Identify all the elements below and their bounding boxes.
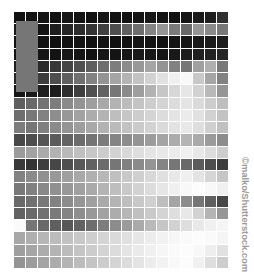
mosaic-cell bbox=[38, 61, 49, 72]
mosaic-cell bbox=[98, 36, 109, 47]
mosaic-cell bbox=[38, 196, 49, 207]
mosaic-cell bbox=[74, 49, 85, 60]
mosaic-cell bbox=[181, 183, 192, 194]
mosaic-cell bbox=[38, 122, 49, 133]
mosaic-cell bbox=[181, 85, 192, 96]
mosaic-cell bbox=[62, 61, 73, 72]
mosaic-cell bbox=[86, 110, 97, 121]
mosaic-cell bbox=[193, 98, 204, 109]
mosaic-cell bbox=[38, 159, 49, 170]
mosaic-cell bbox=[86, 98, 97, 109]
mosaic-cell bbox=[98, 98, 109, 109]
mosaic-cell bbox=[193, 220, 204, 231]
mosaic-cell bbox=[133, 110, 144, 121]
mosaic-cell bbox=[157, 245, 168, 256]
mosaic-cell bbox=[169, 61, 180, 72]
mosaic-cell bbox=[74, 134, 85, 145]
mosaic-cell bbox=[62, 232, 73, 243]
mosaic-cell bbox=[205, 183, 216, 194]
mosaic-cell bbox=[205, 159, 216, 170]
mosaic-cell bbox=[157, 183, 168, 194]
mosaic-cell bbox=[181, 36, 192, 47]
mosaic-cell bbox=[50, 49, 61, 60]
mosaic-cell bbox=[110, 12, 121, 23]
mosaic-cell bbox=[50, 24, 61, 35]
mosaic-cell bbox=[86, 183, 97, 194]
mosaic-cell bbox=[205, 220, 216, 231]
mosaic-cell bbox=[133, 171, 144, 182]
mosaic-cell bbox=[62, 36, 73, 47]
mosaic-cell bbox=[205, 122, 216, 133]
mosaic-cell bbox=[181, 122, 192, 133]
mosaic-cell bbox=[193, 232, 204, 243]
mosaic-cell bbox=[205, 257, 216, 268]
mosaic-cell bbox=[14, 134, 25, 145]
mosaic-cell bbox=[26, 183, 37, 194]
mosaic-cell bbox=[14, 159, 25, 170]
mosaic-cell bbox=[74, 147, 85, 158]
mosaic-cell bbox=[62, 257, 73, 268]
mosaic-cell bbox=[62, 134, 73, 145]
mosaic-cell bbox=[14, 110, 25, 121]
mosaic-cell bbox=[217, 147, 228, 158]
mosaic-cell bbox=[157, 171, 168, 182]
mosaic-cell bbox=[169, 257, 180, 268]
mosaic-cell bbox=[157, 12, 168, 23]
mosaic-cell bbox=[74, 232, 85, 243]
mosaic-cell bbox=[205, 24, 216, 35]
mosaic-cell bbox=[122, 61, 133, 72]
mosaic-cell bbox=[50, 110, 61, 121]
mosaic-cell bbox=[14, 98, 25, 109]
mosaic-cell bbox=[74, 85, 85, 96]
mosaic-cell bbox=[169, 12, 180, 23]
mosaic-cell bbox=[38, 110, 49, 121]
mosaic-cell bbox=[98, 159, 109, 170]
mosaic-cell bbox=[181, 147, 192, 158]
mosaic-cell bbox=[86, 85, 97, 96]
mosaic-cell bbox=[122, 110, 133, 121]
mosaic-cell bbox=[86, 73, 97, 84]
mosaic-cell bbox=[98, 122, 109, 133]
mosaic-cell bbox=[157, 24, 168, 35]
mosaic-cell bbox=[133, 183, 144, 194]
mosaic-cell bbox=[50, 147, 61, 158]
mosaic-cell bbox=[74, 61, 85, 72]
mosaic-cell bbox=[14, 257, 25, 268]
mosaic-cell bbox=[193, 61, 204, 72]
mosaic-cell bbox=[110, 98, 121, 109]
mosaic-cell bbox=[217, 49, 228, 60]
mosaic-cell bbox=[145, 61, 156, 72]
mosaic-cell bbox=[133, 61, 144, 72]
mosaic-cell bbox=[145, 171, 156, 182]
mosaic-cell bbox=[217, 61, 228, 72]
mosaic-cell bbox=[62, 85, 73, 96]
mosaic-cell bbox=[169, 220, 180, 231]
mosaic-cell bbox=[205, 147, 216, 158]
mosaic-cell bbox=[181, 98, 192, 109]
mosaic-cell bbox=[86, 245, 97, 256]
mosaic-cell bbox=[217, 36, 228, 47]
mosaic-cell bbox=[133, 232, 144, 243]
mosaic-cell bbox=[110, 73, 121, 84]
mosaic-cell bbox=[133, 257, 144, 268]
mosaic-cell bbox=[133, 98, 144, 109]
mosaic-cell bbox=[122, 12, 133, 23]
mosaic-cell bbox=[133, 12, 144, 23]
mosaic-cell bbox=[122, 122, 133, 133]
mosaic-cell bbox=[122, 208, 133, 219]
mosaic-cell bbox=[110, 171, 121, 182]
mosaic-cell bbox=[169, 49, 180, 60]
mosaic-cell bbox=[205, 73, 216, 84]
mosaic-cell bbox=[122, 134, 133, 145]
mosaic-cell bbox=[205, 208, 216, 219]
mosaic-cell bbox=[98, 196, 109, 207]
mosaic-cell bbox=[98, 24, 109, 35]
mosaic-cell bbox=[181, 208, 192, 219]
mosaic-cell bbox=[181, 61, 192, 72]
mosaic-cell bbox=[50, 159, 61, 170]
mosaic-cell bbox=[145, 110, 156, 121]
mosaic-cell bbox=[74, 122, 85, 133]
mosaic-cell bbox=[205, 49, 216, 60]
mosaic-cell bbox=[74, 196, 85, 207]
mosaic-cell bbox=[193, 208, 204, 219]
